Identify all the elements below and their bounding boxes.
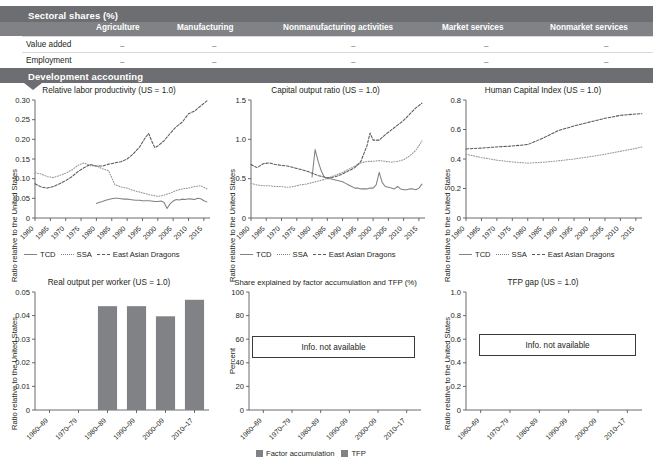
svg-text:1965: 1965: [34, 225, 50, 241]
cell-value-added-agriculture: –: [120, 41, 124, 50]
svg-text:1980: 1980: [511, 225, 527, 241]
line-dashed-icon: [97, 254, 110, 255]
svg-text:2015: 2015: [188, 225, 204, 241]
svg-text:0.04: 0.04: [15, 311, 30, 320]
plot-area: 0204060801001960–691970–791980–891990–99…: [218, 278, 433, 468]
svg-text:100: 100: [231, 288, 244, 297]
sectoral-shares-title: Sectoral shares (%): [28, 10, 118, 21]
svg-text:1965: 1965: [250, 225, 266, 241]
svg-text:40: 40: [236, 358, 244, 367]
svg-text:1975: 1975: [65, 225, 81, 241]
svg-text:0.10: 0.10: [15, 174, 30, 183]
svg-text:0: 0: [240, 406, 244, 415]
svg-text:2005: 2005: [589, 225, 605, 241]
svg-text:2010–17: 2010–17: [603, 417, 627, 441]
svg-text:1985: 1985: [95, 225, 111, 241]
svg-text:1995: 1995: [342, 225, 358, 241]
svg-text:0: 0: [457, 406, 461, 415]
svg-text:1995: 1995: [558, 225, 574, 241]
cell-value-added-market-services: –: [484, 41, 488, 50]
svg-text:1970: 1970: [265, 225, 281, 241]
square-swatch-icon: [341, 450, 348, 457]
line-dotted-icon: [496, 254, 509, 255]
line-dotted-icon: [277, 254, 290, 255]
square-swatch-icon: [256, 450, 263, 457]
svg-text:2000–09: 2000–09: [141, 417, 165, 441]
svg-text:0: 0: [26, 406, 30, 415]
legend-label-ssa: SSA: [293, 250, 308, 259]
legend-label-ead: East Asian Dragons: [329, 250, 396, 259]
svg-text:60: 60: [236, 335, 244, 344]
svg-text:2000: 2000: [573, 225, 589, 241]
svg-text:2015: 2015: [620, 225, 636, 241]
svg-text:1960: 1960: [19, 225, 35, 241]
info-not-available-box: Info. not available: [252, 336, 415, 358]
plot-area: 00.20.40.60.81.01960–691970–791980–89199…: [433, 278, 653, 468]
chart-legend: Factor accumulation TFP: [256, 449, 366, 458]
plot-area: 00.010.020.030.040.051960–691970–791980–…: [0, 278, 218, 468]
svg-text:0.5: 0.5: [235, 174, 246, 183]
legend-item-tcd: TCD: [459, 250, 491, 259]
plot-area: 00.51.01.5196019651970197519801985199019…: [218, 86, 433, 272]
line-solid-icon: [24, 254, 37, 255]
svg-text:1985: 1985: [311, 225, 327, 241]
table-rule-mid: [22, 52, 653, 53]
svg-text:0.25: 0.25: [15, 115, 30, 124]
svg-text:2010–17: 2010–17: [382, 417, 406, 441]
svg-text:1.0: 1.0: [235, 135, 246, 144]
legend-label-tcd: TCD: [40, 250, 56, 259]
svg-text:2000: 2000: [142, 225, 158, 241]
svg-text:0.4: 0.4: [450, 155, 461, 164]
svg-text:0.30: 0.30: [15, 96, 30, 105]
development-accounting-title: Development accounting: [28, 71, 143, 82]
svg-text:1995: 1995: [126, 225, 142, 241]
svg-text:0.6: 0.6: [450, 125, 461, 134]
cell-employment-market-services: –: [484, 57, 488, 66]
plot-area: 00.050.100.150.200.250.30196019651970197…: [0, 86, 218, 272]
legend-item-ssa: SSA: [61, 250, 92, 259]
svg-text:2000–09: 2000–09: [353, 417, 377, 441]
svg-text:1990: 1990: [111, 225, 127, 241]
svg-text:1980–89: 1980–89: [83, 417, 107, 441]
svg-text:0.15: 0.15: [15, 155, 30, 164]
svg-text:0.01: 0.01: [15, 382, 30, 391]
svg-text:0.4: 0.4: [450, 358, 461, 367]
svg-text:1990–99: 1990–99: [544, 417, 568, 441]
svg-text:1990: 1990: [542, 225, 558, 241]
svg-text:20: 20: [236, 382, 244, 391]
svg-text:1960–69: 1960–69: [239, 417, 263, 441]
legend-label-tfp: TFP: [351, 449, 365, 458]
info-not-available-box: Info. not available: [479, 334, 636, 356]
svg-text:2005: 2005: [157, 225, 173, 241]
legend-item-ead: East Asian Dragons: [532, 250, 615, 259]
svg-text:0.2: 0.2: [450, 382, 461, 391]
svg-text:1970–79: 1970–79: [267, 417, 291, 441]
svg-text:1.0: 1.0: [450, 288, 461, 297]
row-label-value-added: Value added: [26, 40, 71, 49]
svg-text:0: 0: [457, 214, 461, 223]
svg-text:2000–09: 2000–09: [573, 417, 597, 441]
figure-page: Sectoral shares (%) Agriculture Manufact…: [0, 0, 653, 470]
svg-text:1975: 1975: [496, 225, 512, 241]
legend-label-tcd: TCD: [475, 250, 491, 259]
svg-text:0.8: 0.8: [450, 96, 461, 105]
legend-item-tfp: TFP: [341, 449, 365, 458]
legend-label-ssa: SSA: [77, 250, 92, 259]
legend-item-ead: East Asian Dragons: [313, 250, 396, 259]
svg-text:1980: 1980: [296, 225, 312, 241]
legend-item-ssa: SSA: [496, 250, 527, 259]
svg-text:2010–17: 2010–17: [170, 417, 194, 441]
column-header-agriculture: Agriculture: [96, 23, 140, 32]
svg-text:2010: 2010: [604, 225, 620, 241]
legend-label-ssa: SSA: [512, 250, 527, 259]
chart-relative-labor-productivity: Relative labor productivity (US = 1.0) R…: [0, 86, 218, 272]
column-header-nonmarket-services: Nonmarket services: [550, 23, 628, 32]
svg-text:1960–69: 1960–69: [25, 417, 49, 441]
cell-employment-nonmarket-services: –: [604, 57, 608, 66]
svg-text:1960: 1960: [235, 225, 251, 241]
svg-text:1980: 1980: [80, 225, 96, 241]
svg-text:2015: 2015: [403, 225, 419, 241]
legend-label-tcd: TCD: [256, 250, 272, 259]
line-dashed-icon: [532, 254, 545, 255]
cell-value-added-nonmanufacturing: –: [351, 41, 355, 50]
